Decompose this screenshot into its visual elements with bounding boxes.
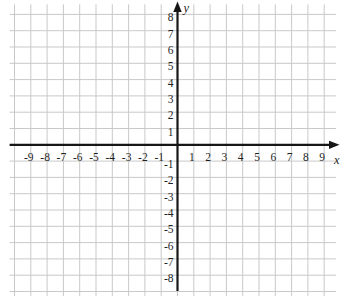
y-tick-label: -2 — [164, 174, 174, 186]
x-tick-label: -7 — [57, 151, 67, 163]
y-tick-label: -6 — [164, 240, 174, 252]
x-tick-label: -4 — [106, 151, 116, 163]
coordinate-plane-svg: -9-8-7-6-5-4-3-2-112345678987654321-1-2-… — [0, 0, 347, 307]
x-tick-label: 8 — [303, 151, 309, 163]
y-tick-label: 5 — [168, 60, 174, 72]
y-tick-label: 3 — [168, 93, 174, 105]
y-tick-label: -1 — [164, 158, 174, 170]
y-tick-label: 4 — [168, 77, 174, 89]
x-tick-label: 9 — [319, 151, 325, 163]
x-tick-label: -5 — [89, 151, 99, 163]
y-tick-label: -5 — [164, 223, 174, 235]
y-tick-label: -7 — [164, 256, 174, 268]
x-tick-label: 2 — [205, 151, 211, 163]
x-tick-label: 7 — [287, 151, 293, 163]
x-tick-label: -9 — [24, 151, 34, 163]
x-tick-label: 3 — [222, 151, 228, 163]
y-tick-label: -4 — [164, 207, 174, 219]
x-tick-label: -8 — [40, 151, 50, 163]
x-tick-label: 6 — [270, 151, 276, 163]
x-tick-label: -2 — [138, 151, 148, 163]
y-tick-label: -8 — [164, 272, 174, 284]
y-axis-label: y — [182, 1, 190, 15]
y-tick-label: 2 — [168, 109, 174, 121]
y-tick-label: -3 — [164, 191, 174, 203]
y-tick-label: 8 — [168, 11, 174, 23]
x-tick-label: 1 — [189, 151, 195, 163]
x-axis-label: x — [333, 153, 340, 167]
coordinate-plane: -9-8-7-6-5-4-3-2-112345678987654321-1-2-… — [0, 0, 347, 307]
x-tick-label: 4 — [238, 151, 244, 163]
x-tick-label: 5 — [254, 151, 260, 163]
x-tick-label: -1 — [154, 151, 164, 163]
x-tick-label: -6 — [73, 151, 83, 163]
y-tick-label: 1 — [168, 126, 174, 138]
x-tick-label: -3 — [122, 151, 132, 163]
y-tick-label: 6 — [168, 44, 174, 56]
plot-background — [0, 0, 347, 307]
y-tick-label: 7 — [168, 28, 174, 40]
